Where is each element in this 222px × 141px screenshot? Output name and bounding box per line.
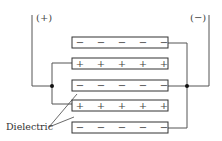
minus-sign: − bbox=[76, 37, 84, 48]
plus-sign: + bbox=[118, 100, 126, 111]
minus-sign: − bbox=[118, 122, 126, 133]
negative-junction-dot bbox=[185, 84, 189, 88]
capacitor-diagram: (+) (−) −−−−−+++++−−−−−+++++−−−−− Dielec… bbox=[0, 0, 222, 141]
positive-junction-dot bbox=[50, 84, 54, 88]
minus-sign: − bbox=[76, 80, 84, 91]
minus-sign: − bbox=[97, 80, 105, 91]
plate-positive: +++++ bbox=[72, 58, 168, 69]
minus-sign: − bbox=[97, 122, 105, 133]
plus-sign: + bbox=[97, 58, 105, 69]
negative-terminal-label: (−) bbox=[190, 12, 206, 23]
minus-sign: − bbox=[160, 37, 168, 48]
minus-sign: − bbox=[118, 37, 126, 48]
positive-bus-wire bbox=[52, 63, 72, 104]
plus-sign: + bbox=[139, 58, 147, 69]
plate-negative: −−−−− bbox=[72, 80, 168, 91]
plus-sign: + bbox=[76, 100, 84, 111]
plate-negative: −−−−− bbox=[72, 122, 168, 133]
minus-sign: − bbox=[160, 80, 168, 91]
negative-lead-wire bbox=[187, 15, 209, 86]
plus-sign: + bbox=[118, 58, 126, 69]
minus-sign: − bbox=[76, 122, 84, 133]
plus-sign: + bbox=[160, 58, 168, 69]
plus-sign: + bbox=[160, 100, 168, 111]
minus-sign: − bbox=[139, 37, 147, 48]
minus-sign: − bbox=[118, 80, 126, 91]
plates-group: −−−−−+++++−−−−−+++++−−−−− bbox=[72, 37, 168, 133]
dielectric-label: Dielectric bbox=[6, 121, 53, 132]
minus-sign: − bbox=[139, 122, 147, 133]
plate-negative: −−−−− bbox=[72, 37, 168, 48]
plus-sign: + bbox=[139, 100, 147, 111]
negative-wiring bbox=[168, 15, 209, 128]
positive-lead-wire bbox=[32, 15, 52, 86]
plate-positive: +++++ bbox=[72, 100, 168, 111]
positive-wiring bbox=[32, 15, 72, 104]
minus-sign: − bbox=[139, 80, 147, 91]
positive-terminal-label: (+) bbox=[36, 12, 52, 23]
plus-sign: + bbox=[97, 100, 105, 111]
plus-sign: + bbox=[76, 58, 84, 69]
minus-sign: − bbox=[97, 37, 105, 48]
minus-sign: − bbox=[160, 122, 168, 133]
